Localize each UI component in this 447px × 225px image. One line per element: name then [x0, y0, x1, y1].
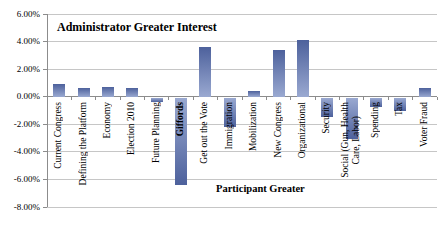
- category-tick: [437, 97, 438, 100]
- y-tick-label: -8.00%: [0, 202, 40, 212]
- category-tick: [120, 97, 121, 100]
- chart-title: Administrator Greater Interest: [57, 20, 217, 35]
- category-tick: [339, 97, 340, 100]
- category-tick: [242, 97, 243, 100]
- category-label-new-congress: New Congress: [273, 102, 284, 158]
- bar-chart: Administrator Greater Interest Participa…: [0, 0, 447, 225]
- category-label-future-planning: Future Planning: [151, 102, 162, 163]
- category-label-social-gun-health-care-labor: Care, Labor): [351, 116, 362, 165]
- y-tick-label: -6.00%: [0, 174, 40, 184]
- bar-current-congress: [53, 84, 65, 96]
- category-tick: [168, 97, 169, 100]
- bar-economy: [102, 87, 114, 97]
- category-tick: [290, 97, 291, 100]
- category-label-mobilization: Mobilization: [248, 102, 259, 151]
- category-label-immigration: Immigration: [224, 102, 235, 150]
- y-tick-label: 0.00%: [0, 91, 40, 101]
- gridline: [47, 151, 437, 152]
- category-tick: [144, 97, 145, 100]
- category-tick: [315, 97, 316, 100]
- category-label-economy: Economy: [102, 102, 113, 138]
- x-axis-title: Participant Greater: [216, 183, 305, 194]
- category-label-election-2010: Election 2010: [126, 102, 137, 155]
- category-tick: [95, 97, 96, 100]
- category-tick: [363, 97, 364, 100]
- category-label-get-out-the-vote: Get out the Vote: [199, 102, 210, 164]
- y-tick-label: -2.00%: [0, 119, 40, 129]
- y-axis-line: [47, 14, 48, 207]
- bar-organizational: [297, 40, 309, 97]
- category-label-current-congress: Current Congress: [53, 102, 64, 169]
- category-tick: [47, 97, 48, 100]
- gridline: [47, 179, 437, 180]
- gridline: [47, 207, 437, 208]
- category-label-organizational: Organizational: [297, 102, 308, 158]
- category-tick: [388, 97, 389, 100]
- category-tick: [412, 97, 413, 100]
- category-label-tax: Tax: [394, 102, 405, 116]
- y-tick-label: -4.00%: [0, 146, 40, 156]
- category-label-giffords: Giffords: [175, 102, 186, 136]
- category-label-voter-fraud: Voter Fraud: [419, 102, 430, 147]
- y-tick-label: 2.00%: [0, 64, 40, 74]
- bar-defining-the-platform: [78, 88, 90, 96]
- category-label-social-gun-health-care-labor: Social (Gun, Health: [340, 102, 351, 178]
- bar-election-2010: [126, 88, 138, 96]
- y-tick-label: 6.00%: [0, 9, 40, 19]
- category-label-defining-the-platform: Defining the Platform: [78, 102, 89, 185]
- bar-mobilization: [248, 91, 260, 97]
- gridline: [47, 41, 437, 42]
- bar-new-congress: [273, 50, 285, 97]
- category-label-spending: Spending: [370, 102, 381, 138]
- gridline: [47, 14, 437, 15]
- category-tick: [217, 97, 218, 100]
- category-tick: [266, 97, 267, 100]
- bar-voter-fraud: [419, 88, 431, 96]
- category-label-security: Security: [321, 102, 332, 134]
- bar-get-out-the-vote: [199, 47, 211, 97]
- y-tick-label: 4.00%: [0, 36, 40, 46]
- category-tick: [193, 97, 194, 100]
- category-tick: [71, 97, 72, 100]
- gridline: [47, 69, 437, 70]
